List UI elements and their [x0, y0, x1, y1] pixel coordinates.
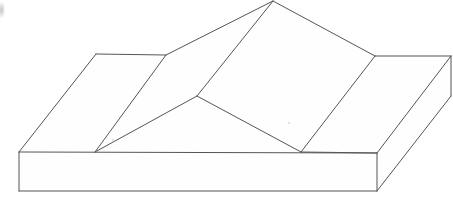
- isometric-block-drawing: [0, 0, 453, 204]
- face-base-slab-front: [19, 152, 377, 191]
- faces-group: [19, 1, 451, 191]
- figure-canvas: [0, 0, 453, 204]
